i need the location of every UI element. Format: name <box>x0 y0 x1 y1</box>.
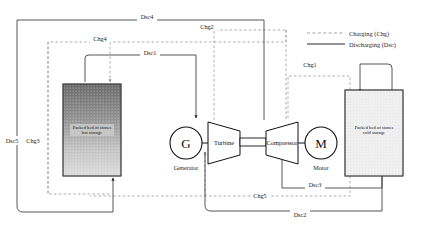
charging-path-chg2 <box>214 30 286 120</box>
motor: M Motor <box>305 127 337 171</box>
compressor-label: Compressor <box>267 139 299 146</box>
motor-symbol: M <box>315 136 327 151</box>
generator: G Generator <box>170 127 202 171</box>
stream-label-dsc4: Dsc4 <box>141 13 154 20</box>
legend-label-charging: Charging (Chg) <box>349 30 389 38</box>
stream-label-chg1: Chg1 <box>303 61 316 68</box>
cold-storage-tank: Packed bed of stones cold storage <box>345 90 403 176</box>
stream-label-chg4: Chg4 <box>93 35 106 42</box>
discharging-path-dsc4 <box>17 20 264 206</box>
generator-label: Generator <box>174 164 199 171</box>
stream-label-chg5: Chg5 <box>253 192 266 199</box>
stream-label-dsc1: Dsc1 <box>144 49 157 56</box>
cold-storage-label-line1: Packed bed of stones <box>355 125 394 130</box>
generator-symbol: G <box>181 136 190 151</box>
turbine-label: Turbine <box>214 139 234 146</box>
diagram-root: Packed bed of stones hot storage Packed … <box>0 0 430 230</box>
stream-label-dsc2: Dsc2 <box>294 211 307 218</box>
cold-storage-label-line2: cold storage <box>363 130 385 135</box>
stream-label-chg2: Chg2 <box>200 23 213 30</box>
stream-label-dsc3: Dsc3 <box>309 181 322 188</box>
hot-storage-label-line1: Packed bed of stones <box>73 125 112 130</box>
turbine: Turbine <box>202 122 240 164</box>
charging-path-chg1 <box>288 76 350 118</box>
legend-label-discharging: Discharging (Dsc) <box>349 41 396 49</box>
pumped-thermal-storage-schematic: Packed bed of stones hot storage Packed … <box>0 0 430 230</box>
stream-label-chg3: Chg3 <box>26 137 39 144</box>
shaft <box>240 138 266 146</box>
motor-label: Motor <box>313 164 328 171</box>
stream-labels: Dsc4 Chg2 Chg4 Dsc1 Chg1 Dsc5 Chg3 Dsc3 … <box>5 12 325 219</box>
legend: Charging (Chg) Discharging (Dsc) <box>307 30 396 49</box>
discharging-path-dsc5 <box>17 178 113 212</box>
hot-storage-tank: Packed bed of stones hot storage <box>63 84 121 176</box>
hot-storage-label-line2: hot storage <box>82 130 102 135</box>
stream-label-dsc5: Dsc5 <box>6 137 19 144</box>
compressor: Compressor <box>266 122 305 164</box>
